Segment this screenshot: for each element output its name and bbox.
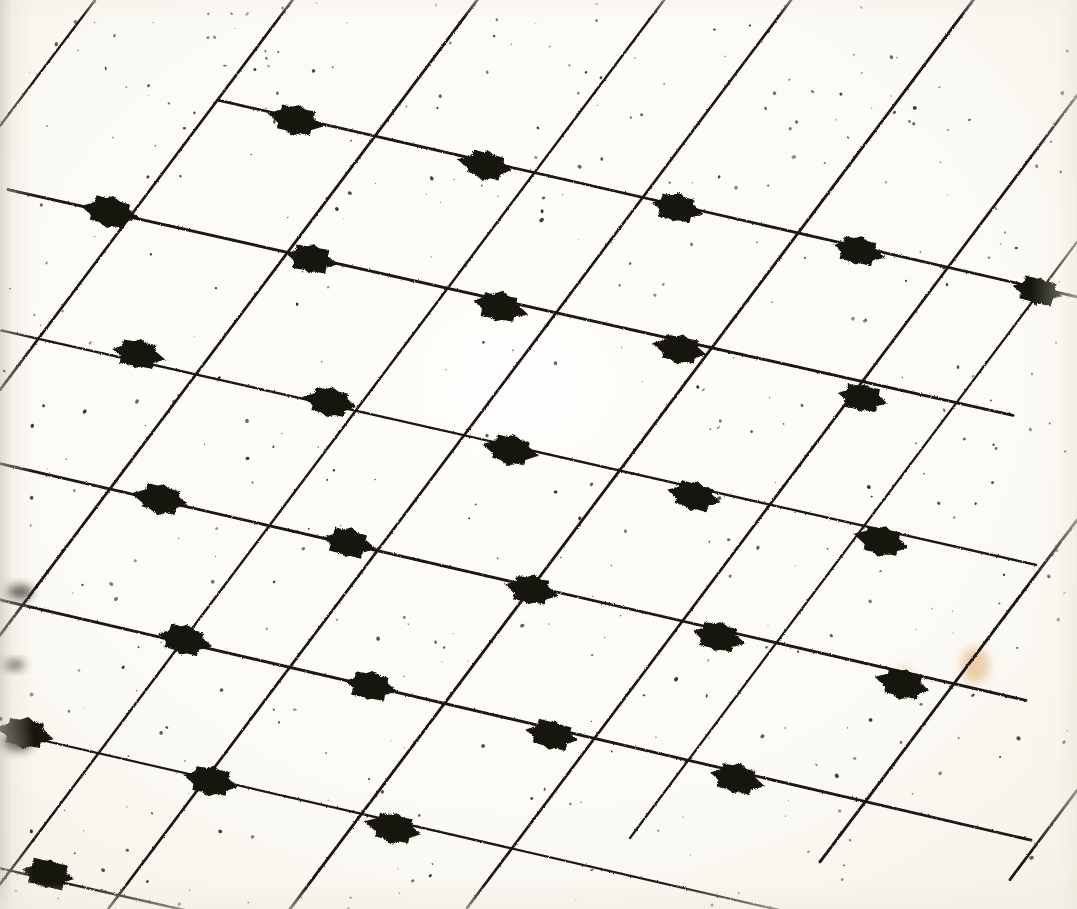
speckle <box>178 538 179 539</box>
edge-smudge <box>6 585 32 599</box>
stain-spot-primary <box>961 647 989 683</box>
lattice-node-core <box>513 576 549 605</box>
image-canvas <box>0 0 1077 909</box>
lattice-artwork <box>0 0 1077 909</box>
paper-background <box>0 0 1077 909</box>
speckle <box>690 854 691 855</box>
edge-smudge <box>2 733 32 751</box>
speckle <box>788 800 789 801</box>
edge-smudge <box>4 660 24 670</box>
speckle <box>957 365 960 369</box>
